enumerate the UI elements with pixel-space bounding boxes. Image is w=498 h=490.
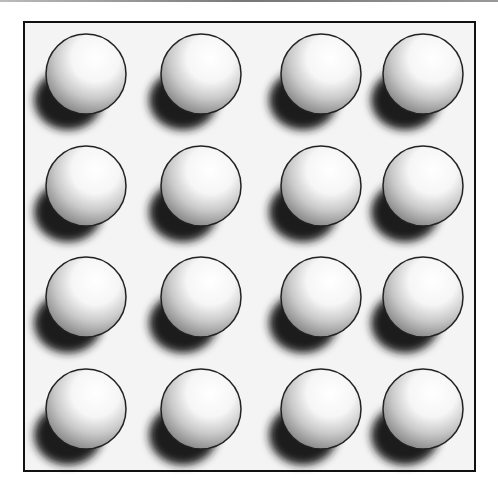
sphere-r4-c2: [161, 369, 241, 449]
sphere-r2-c1: [46, 146, 126, 226]
sphere-r3-c1: [46, 257, 126, 337]
sphere-r1-c3: [281, 34, 361, 114]
sphere-r2-c3: [281, 146, 361, 226]
sphere-r3-c2: [161, 257, 241, 337]
sphere-r1-c1: [46, 34, 126, 114]
spheres-scene: [0, 0, 498, 490]
sphere-r4-c4: [383, 369, 463, 449]
sphere-r2-c4: [383, 146, 463, 226]
sphere-r4-c1: [46, 369, 126, 449]
sphere-r3-c3: [281, 257, 361, 337]
sphere-r4-c3: [281, 369, 361, 449]
sphere-r1-c4: [383, 34, 463, 114]
sphere-r2-c2: [161, 146, 241, 226]
sphere-r1-c2: [161, 34, 241, 114]
sphere-r3-c4: [383, 257, 463, 337]
